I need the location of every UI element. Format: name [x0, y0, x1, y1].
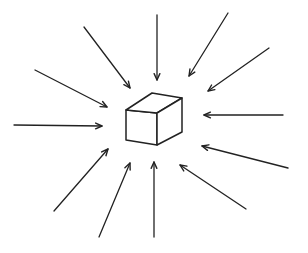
arrow-icon-bottom-left: [54, 149, 108, 211]
arrow-icon-top-right: [208, 48, 269, 91]
arrow-icon-top: [154, 15, 160, 80]
arrow-icon-bottom-left-steep: [99, 163, 130, 237]
arrow-icon-right: [204, 112, 283, 118]
arrow-icon-bottom-right-steep: [180, 165, 246, 209]
diagram-svg: [0, 0, 308, 253]
arrow-icon-bottom: [151, 162, 157, 237]
diagram-canvas: [0, 0, 308, 253]
arrow-icon-bottom-right: [202, 145, 288, 168]
arrow-icon-top-left-steep: [84, 27, 130, 88]
arrow-icon-left: [14, 123, 102, 129]
arrow-icon-top-right-steep: [189, 13, 228, 76]
cube-front-face: [126, 110, 157, 145]
arrow-icon-top-left: [35, 70, 107, 107]
cube-icon: [126, 93, 182, 145]
